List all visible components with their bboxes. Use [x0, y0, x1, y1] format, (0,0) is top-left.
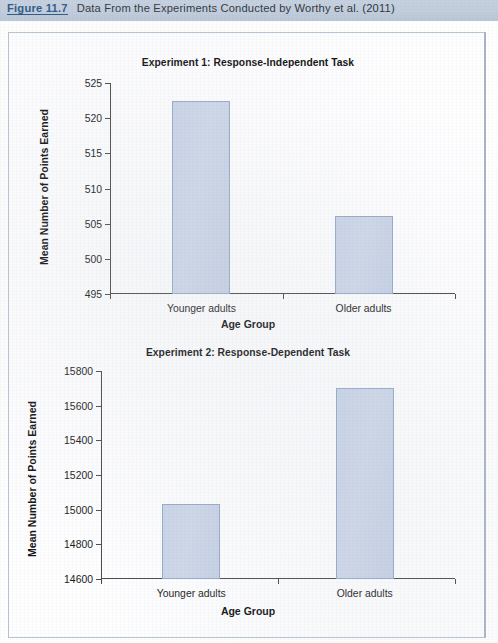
- chart-2-x-axis-title: Age Group: [9, 605, 487, 617]
- figure-caption: Figure 11.7Data From the Experiments Con…: [7, 2, 395, 14]
- chart-1-y-tick-label: 525: [85, 78, 102, 89]
- chart-2-x-tick-label: Older adults: [337, 588, 393, 599]
- chart-2-y-tick-label: 15800: [64, 366, 93, 377]
- chart-1-y-tick-label: 515: [85, 148, 102, 159]
- chart-2-y-tick: [96, 406, 101, 407]
- chart-1-y-tick: [105, 153, 110, 154]
- chart-1-y-tick-label: 510: [85, 183, 102, 194]
- chart-2-bar-1: [162, 504, 220, 579]
- chart-1-x-tick: [455, 294, 456, 299]
- chart-2-bar-2: [336, 388, 394, 579]
- chart-1-y-tick-label: 495: [85, 289, 102, 300]
- chart-1-x-tick-label: Younger adults: [167, 303, 236, 314]
- chart-1-x-axis-title: Age Group: [9, 318, 487, 330]
- chart-1-y-tick-label: 505: [85, 218, 102, 229]
- chart-2-x-tick: [455, 579, 456, 584]
- chart-1-y-tick: [105, 189, 110, 190]
- chart-1-y-tick: [105, 118, 110, 119]
- chart-2-y-tick-label: 15200: [64, 470, 93, 481]
- chart-2-title: Experiment 2: Response-Dependent Task: [9, 347, 487, 358]
- chart-1-y-tick: [105, 83, 110, 84]
- chart-1-title: Experiment 1: Response-Independent Task: [9, 57, 487, 68]
- chart-1-x-tick: [110, 294, 111, 299]
- chart-2-x-tick: [101, 579, 102, 584]
- chart-2-y-tick: [96, 440, 101, 441]
- chart-experiment-2: Experiment 2: Response-Dependent Task Me…: [9, 333, 487, 633]
- chart-2-plot-area: 14600148001500015200154001560015800Young…: [101, 371, 455, 579]
- chart-1-y-tick-label: 520: [85, 113, 102, 124]
- chart-2-y-tick-label: 15600: [64, 400, 93, 411]
- chart-2-y-tick: [96, 544, 101, 545]
- chart-1-bar-1: [172, 101, 230, 294]
- chart-2-y-axis-title: Mean Number of Points Earned: [26, 394, 38, 564]
- chart-2-y-tick-label: 14800: [64, 539, 93, 550]
- chart-1-bar-2: [335, 216, 393, 294]
- chart-experiment-1: Experiment 1: Response-Independent Task …: [9, 41, 487, 331]
- chart-1-x-tick-label: Older adults: [336, 303, 392, 314]
- figure-caption-bar: Figure 11.7Data From the Experiments Con…: [0, 0, 498, 21]
- chart-2-y-tick-label: 14600: [64, 574, 93, 585]
- chart-1-plot-area: 495500505510515520525Younger adultsOlder…: [110, 83, 455, 294]
- chart-1-x-tick: [283, 294, 284, 299]
- chart-1-y-axis-line: [110, 83, 111, 294]
- figure-caption-text: Data From the Experiments Conducted by W…: [77, 2, 395, 14]
- chart-2-y-tick: [96, 371, 101, 372]
- chart-2-y-axis-line: [101, 371, 102, 579]
- chart-1-y-tick: [105, 259, 110, 260]
- chart-2-y-tick: [96, 475, 101, 476]
- chart-2-y-tick: [96, 510, 101, 511]
- chart-2-y-tick-label: 15400: [64, 435, 93, 446]
- chart-1-y-tick: [105, 224, 110, 225]
- chart-2-x-tick: [278, 579, 279, 584]
- figure-frame: Experiment 1: Response-Independent Task …: [8, 32, 486, 638]
- chart-1-y-axis-title: Mean Number of Points Earned: [38, 102, 50, 272]
- chart-1-y-tick-label: 500: [85, 253, 102, 264]
- chart-2-x-tick-label: Younger adults: [157, 588, 226, 599]
- chart-2-y-tick-label: 15000: [64, 504, 93, 515]
- figure-number-label: Figure 11.7: [7, 2, 68, 15]
